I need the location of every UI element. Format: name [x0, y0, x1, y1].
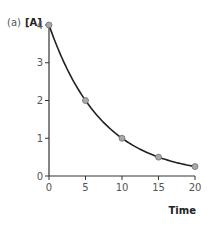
y-tick-label: 2	[37, 95, 43, 106]
data-points	[46, 22, 198, 170]
panel-label: (a)	[7, 17, 21, 28]
x-tick-label: 20	[189, 182, 202, 193]
x-tick-label: 0	[46, 182, 52, 193]
data-point-marker	[83, 98, 89, 104]
decay-curve	[49, 25, 195, 167]
x-tick-label: 10	[116, 182, 129, 193]
data-point-marker	[46, 22, 52, 28]
y-tick-label: 0	[37, 171, 43, 182]
data-point-marker	[119, 135, 125, 141]
x-tick-label: 15	[152, 182, 165, 193]
data-curve	[49, 25, 195, 167]
y-tick-label: 3	[37, 57, 43, 68]
y-tick-label: 4	[37, 20, 43, 31]
data-point-marker	[156, 154, 162, 160]
y-tick-label: 1	[37, 133, 43, 144]
x-tick-label: 5	[82, 182, 88, 193]
axes: 0510152001234	[37, 20, 202, 194]
decay-chart: (a) [A] 0510152001234 Time	[0, 0, 214, 227]
data-point-marker	[192, 164, 198, 170]
x-axis-label: Time	[169, 205, 197, 216]
